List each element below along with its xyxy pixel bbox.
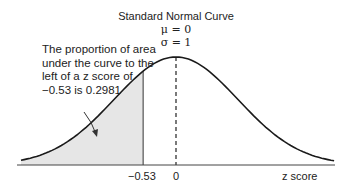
x-axis-label: z score <box>282 170 317 183</box>
annotation-text: The proportion of area under the curve t… <box>42 43 162 98</box>
tick-zero: 0 <box>173 170 179 183</box>
chart-title: Standard Normal Curve <box>0 10 352 23</box>
mu-label: μ = 0 <box>0 23 352 36</box>
tick-neg053: −0.53 <box>128 170 156 183</box>
